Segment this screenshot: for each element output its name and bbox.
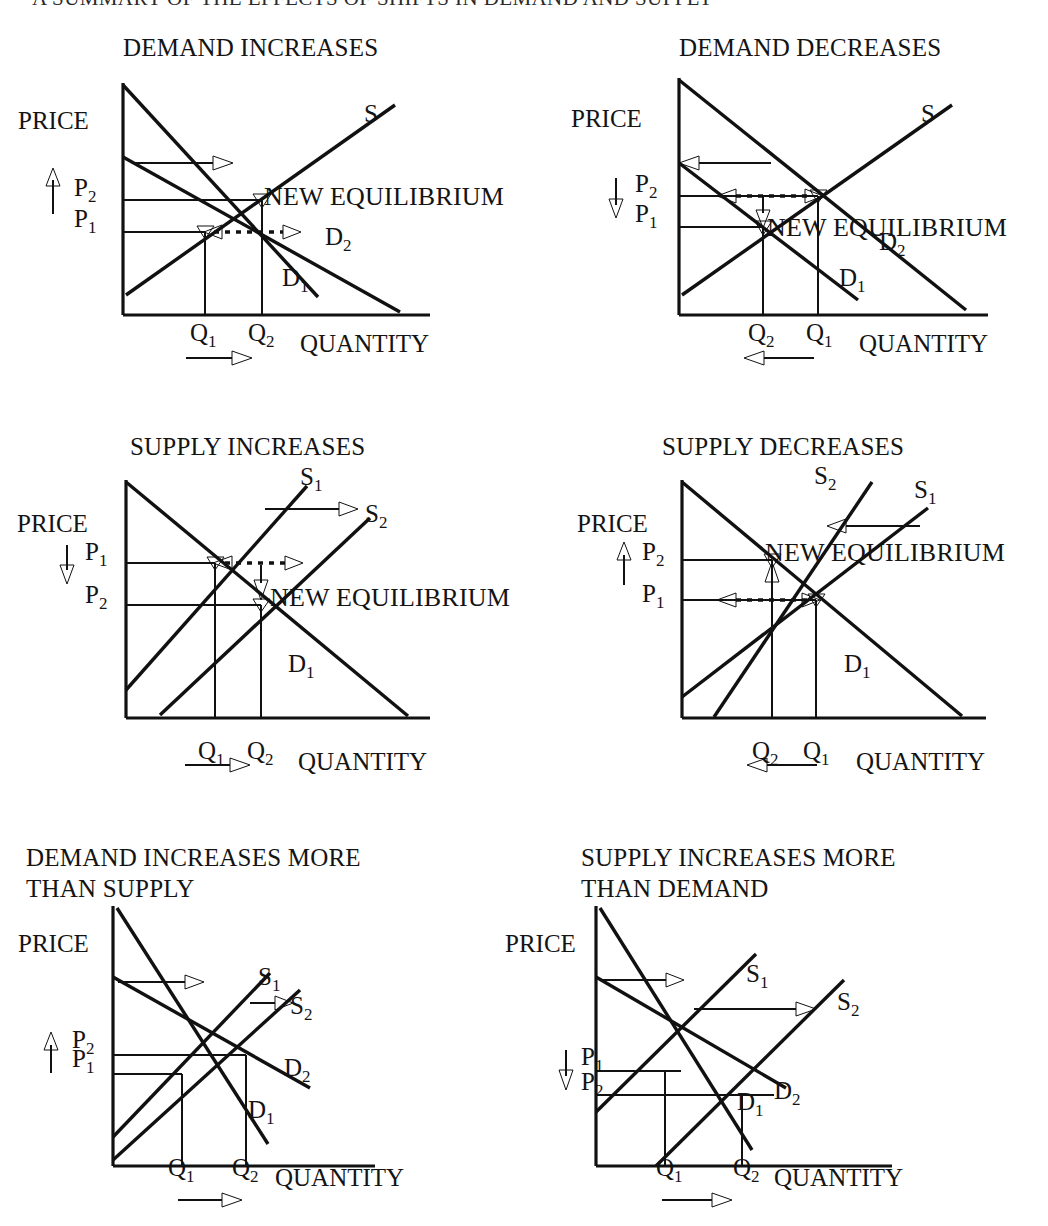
demand-shift-arrowhead <box>185 975 204 989</box>
curve-d1 <box>123 85 318 297</box>
plot-area <box>0 0 524 400</box>
chart-supply-increases: SUPPLY INCREASES PRICE QUANTITY P1 P2 Q1… <box>0 420 524 820</box>
supply-shift-arrowhead <box>339 502 358 516</box>
quantity-direction-arrowhead <box>747 758 767 772</box>
curve-s1 <box>126 486 307 690</box>
quantity-direction-arrowhead <box>222 1193 242 1207</box>
demand-shift-arrowhead <box>213 156 233 170</box>
dotted-arrowhead-right <box>283 225 301 239</box>
quantity-direction-arrowhead <box>712 1193 732 1207</box>
plot-area <box>0 830 524 1226</box>
curve-s1 <box>682 508 928 697</box>
plot-area <box>0 420 524 820</box>
plot-area <box>524 830 1048 1226</box>
quantity-direction-arrowhead <box>744 351 764 365</box>
chart-demand-increases-more-than-supply: DEMAND INCREASES MORE THAN SUPPLY PRICE … <box>0 830 524 1226</box>
plot-area <box>524 420 1048 820</box>
chart-demand-decreases: DEMAND DECREASES PRICE QUANTITY P2 P1 Q2… <box>524 0 1048 400</box>
chart-supply-increases-more-than-demand: SUPPLY INCREASES MORE THAN DEMAND PRICE … <box>524 830 1048 1226</box>
chart-demand-increases: DEMAND INCREASES PRICE QUANTITY P2 P1 Q1… <box>0 0 524 400</box>
chart-supply-decreases: SUPPLY DECREASES PRICE QUANTITY P2 P1 Q2… <box>524 420 1048 820</box>
plot-area <box>524 0 1048 400</box>
demand-shift-arrowhead <box>679 156 699 170</box>
curve-d1 <box>600 908 752 1150</box>
dotted-arrowhead-right <box>285 556 303 570</box>
quantity-direction-arrowhead <box>230 758 250 772</box>
curve-s2 <box>656 980 844 1166</box>
curve-s1 <box>596 954 756 1112</box>
demand-shift-arrowhead <box>666 973 684 987</box>
quantity-direction-arrowhead <box>232 351 252 365</box>
